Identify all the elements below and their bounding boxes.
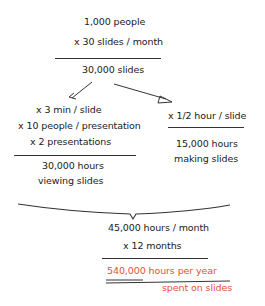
- making-label: making slides: [174, 153, 238, 164]
- yearly-label: spent on slides: [162, 282, 232, 293]
- viewing-hours: 30,000 hours: [42, 160, 104, 171]
- viewing-label: viewing slides: [38, 175, 103, 186]
- months-multiplier: x 12 months: [123, 240, 181, 251]
- divider-left: [14, 155, 136, 156]
- hours-per-slide: x 1/2 hour / slide: [168, 110, 246, 121]
- people-per-presentation: x 10 people / presentation: [18, 120, 141, 131]
- summing-brace-icon: [18, 204, 230, 219]
- divider-right: [168, 127, 244, 128]
- making-hours: 15,000 hours: [176, 138, 238, 149]
- minutes-per-slide: x 3 min / slide: [36, 104, 101, 115]
- arrow-right-icon: [114, 84, 172, 103]
- arrow-left-icon: [69, 82, 92, 99]
- presentations-count: x 2 presentations: [30, 136, 111, 147]
- yearly-hours: 540,000 hours per year: [107, 265, 217, 276]
- monthly-hours: 45,000 hours / month: [108, 222, 209, 233]
- divider-bottom: [102, 258, 208, 259]
